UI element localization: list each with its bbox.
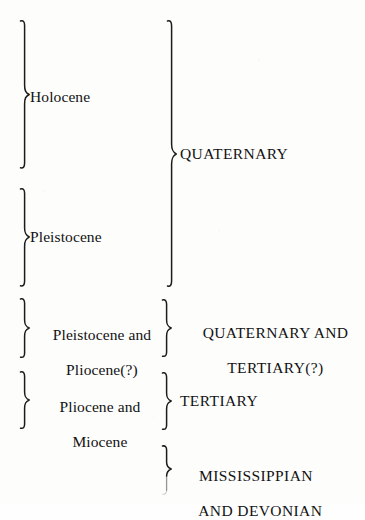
brace-quaternary-and-tertiary [158,296,176,360]
label-pliocene-and-miocene: Pliocene and Miocene [30,381,154,468]
label-pliocene-and-miocene-line1: Pliocene and [60,398,141,415]
label-quaternary: QUATERNARY [180,145,288,162]
label-pleistocene-and-pliocene-line2: Pliocene(?) [66,361,138,378]
brace-quaternary [163,16,181,292]
brace-mississippian-and-devonian [158,443,176,501]
label-mississippian-and-devonian-line2: AND DEVONIAN [198,502,322,519]
label-pleistocene: Pleistocene [30,228,102,245]
label-mississippian-and-devonian-line1: MISSISSIPPIAN [199,467,313,484]
label-pleistocene-and-pliocene-line1: Pleistocene and [53,326,151,343]
label-pliocene-and-miocene-line2: Miocene [72,433,127,450]
label-quaternary-and-tertiary-line2: TERTIARY(?) [227,359,323,376]
label-quaternary-and-tertiary: QUATERNARY AND TERTIARY(?) [176,307,358,394]
label-mississippian-and-devonian: MISSISSIPPIAN AND DEVONIAN [182,450,362,520]
brace-tertiary [158,369,176,433]
label-tertiary: TERTIARY [180,392,258,409]
label-holocene: Holocene [30,88,90,105]
label-quaternary-and-tertiary-line1: QUATERNARY AND [203,324,349,341]
